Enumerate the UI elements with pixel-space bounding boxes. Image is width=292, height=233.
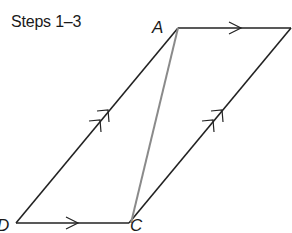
diagram-canvas: Steps 1–3 A C D (0, 0, 292, 233)
double-arrow-marker-da (89, 110, 109, 132)
parallelogram-diagram (0, 0, 292, 233)
vertex-label-d: D (0, 216, 9, 233)
steps-title: Steps 1–3 (11, 13, 81, 31)
vertex-label-c: C (130, 216, 142, 233)
vertex-label-a: A (152, 18, 163, 38)
